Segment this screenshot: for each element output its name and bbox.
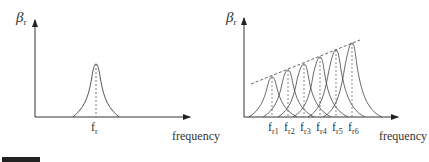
right-tick-fr5: fr5 [332, 120, 343, 136]
right-y-label: βr [225, 9, 236, 27]
right-tick-fr6: fr6 [348, 120, 359, 136]
figure-badge [2, 157, 40, 162]
figure: βr fr frequency βr fr1 fr2 fr3 fr4 f [0, 0, 429, 162]
left-x-label: frequency [172, 129, 220, 143]
right-tick-fr4: fr4 [316, 120, 327, 136]
left-chart: βr fr frequency [15, 9, 220, 143]
right-tick-fr2: fr2 [284, 120, 295, 136]
curve-fr4 [293, 57, 348, 117]
curve-fr2 [263, 70, 314, 117]
right-tick-fr1: fr1 [268, 120, 279, 136]
left-y-label: βr [15, 9, 26, 27]
right-tick-fr3: fr3 [300, 120, 311, 136]
right-x-label: frequency [379, 129, 427, 143]
right-resonance-curves [249, 43, 382, 117]
right-chart: βr fr1 fr2 fr3 fr4 fr5 fr6 frequency [225, 9, 427, 143]
right-envelope-dashed-line [251, 40, 360, 84]
curve-fr1 [249, 77, 297, 117]
left-tick-fr: fr [91, 120, 98, 136]
